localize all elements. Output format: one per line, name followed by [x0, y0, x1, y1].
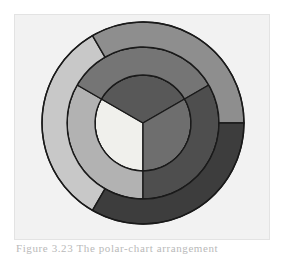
sunburst-chart	[15, 15, 271, 241]
figure-caption: Figure 3.23 The polar-chart arrangement	[16, 242, 274, 254]
figure-panel	[14, 14, 270, 240]
sunburst-slice-group	[42, 22, 244, 224]
figure-root: Figure 3.23 The polar-chart arrangement	[0, 0, 282, 254]
